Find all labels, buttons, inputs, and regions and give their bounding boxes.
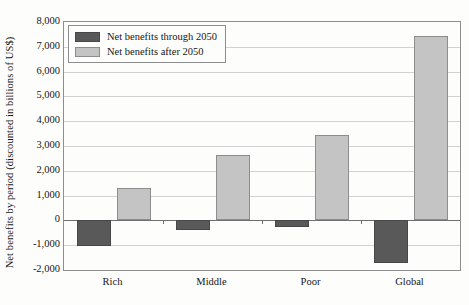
y-axis-tick-label: 1,000 [18,190,60,200]
gridline [64,72,460,73]
legend-item: Net benefits after 2050 [75,45,217,58]
legend-label: Net benefits through 2050 [107,31,217,42]
y-axis-tick-label: 5,000 [18,90,60,100]
x-axis-tick-label: Poor [301,276,321,288]
chart-legend: Net benefits through 2050 Net benefits a… [68,25,226,63]
y-axis-title: Net benefits by period (discounted in bi… [0,0,18,305]
legend-label: Net benefits after 2050 [107,46,204,57]
y-axis-tick-label: 6,000 [18,66,60,76]
x-axis-tick [163,220,164,224]
bar [176,220,210,230]
legend-swatch-after-2050 [75,47,100,57]
gridline [64,171,460,172]
legend-item: Net benefits through 2050 [75,30,217,43]
bar [77,220,111,245]
y-axis-tick-label: 7,000 [18,41,60,51]
bar [216,155,250,220]
x-axis-tick-label: Middle [196,276,226,288]
gridline [64,121,460,122]
y-axis-tick-label: 2,000 [18,165,60,175]
bar-chart: Net benefits by period (discounted in bi… [0,0,469,305]
bar [275,220,309,226]
x-axis-tick-labels: RichMiddlePoorGlobal [63,276,461,296]
y-axis-tick-label: -2,000 [18,264,60,274]
x-axis-tick-label: Global [395,276,424,288]
y-axis-tick-label: 3,000 [18,140,60,150]
y-axis-tick-label: 0 [18,214,60,224]
y-axis-tick-label: 8,000 [18,16,60,26]
gridline [64,96,460,97]
y-axis-tick-labels: 8,0007,0006,0005,0004,0003,0002,0001,000… [18,21,60,271]
y-axis-tick-label: -1,000 [18,239,60,249]
gridline [64,146,460,147]
bar [117,188,151,220]
bar [414,36,448,221]
y-axis-tick-label: 4,000 [18,115,60,125]
bar [374,220,408,262]
legend-swatch-through-2050 [75,32,100,42]
x-axis-tick [361,220,362,224]
x-axis-tick [262,220,263,224]
bar [315,135,349,221]
x-axis-tick-label: Rich [103,276,123,288]
gridline [64,270,460,271]
